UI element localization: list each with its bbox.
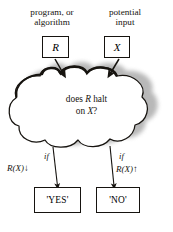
branch-right-condition-expr: R(X) (116, 164, 133, 174)
input-caption-program-line2: algorithm (12, 18, 92, 28)
input-caption-input: potential input (92, 8, 158, 28)
branch-left-if-label: if (44, 152, 49, 161)
arrow-up-glyph: ↑ (133, 164, 138, 174)
input-caption-input-line2: input (92, 18, 158, 28)
arrow-cloud-to-yes (53, 147, 58, 186)
output-box-yes-label: 'YES' (46, 195, 68, 205)
branch-left-condition-expr: R(X) (7, 163, 24, 173)
output-box-no: 'NO' (96, 187, 140, 213)
output-box-no-label: 'NO' (109, 195, 127, 205)
cloud-question-line1-post: halt (91, 94, 107, 104)
halting-problem-figure: program, or algorithm potential input R … (0, 0, 173, 232)
cloud-question-line1: does R halt (0, 94, 173, 104)
cloud-question-line1-pre: does (66, 94, 85, 104)
output-box-yes: 'YES' (34, 187, 81, 213)
input-caption-input-line1: potential (109, 7, 141, 17)
arrow-cloud-to-no (110, 146, 114, 186)
branch-right-if-label: if (119, 152, 124, 161)
input-caption-program-line1: program, or (30, 7, 73, 17)
cloud-question-line2-post: ? (93, 106, 97, 116)
branch-left-condition: R(X)↓ (7, 163, 29, 174)
program-box-label: R (52, 41, 59, 53)
branch-right-condition: R(X)↑ (116, 164, 138, 175)
input-box: X (104, 36, 130, 58)
input-box-label: X (114, 41, 121, 53)
cloud-question-line2: on X? (0, 106, 173, 116)
program-box: R (42, 36, 69, 58)
input-caption-program: program, or algorithm (12, 8, 92, 28)
cloud-question-line2-pre: on (76, 106, 88, 116)
arrow-down-glyph: ↓ (24, 163, 29, 173)
